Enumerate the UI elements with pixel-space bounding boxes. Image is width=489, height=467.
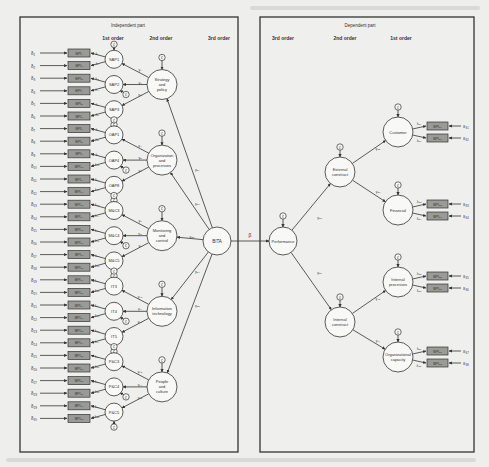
epsilon-label: ε₃₃ bbox=[463, 202, 469, 207]
delta-label: δ₁₄ bbox=[31, 215, 37, 220]
first-order-label: M&C4 bbox=[108, 233, 120, 238]
right-order-label-1st: 1st order bbox=[390, 35, 411, 41]
disturbance-icon-label: ζ bbox=[397, 255, 399, 260]
indicator-box-label: BPI₃₁ bbox=[433, 125, 442, 129]
delta-label: δ₁₈ bbox=[31, 265, 37, 270]
delta-label: δ₂ bbox=[31, 64, 36, 69]
indicator-box-label: BPI₁₉ bbox=[75, 278, 84, 282]
indicator-box-label: BPI₁₂ bbox=[75, 190, 84, 194]
delta-label: δ₁₅ bbox=[31, 227, 37, 232]
second-order-label-line: processes bbox=[153, 163, 171, 168]
indicator-box-label: BPI₃₆ bbox=[433, 287, 442, 291]
lambda-label: λ₃₇ bbox=[417, 347, 422, 351]
first-order-label: P&C3 bbox=[109, 359, 120, 364]
delta-label: δ₁₇ bbox=[31, 253, 37, 258]
delta-label: δ₂₃ bbox=[31, 328, 37, 333]
gamma-label: γ₃₁ bbox=[195, 168, 200, 172]
disturbance-icon-label: ζ bbox=[113, 425, 115, 430]
gamma-label: γ₃₈ bbox=[376, 147, 381, 151]
gamma-label: γ₄₀ bbox=[376, 297, 381, 301]
gamma-label: γ₃₅ bbox=[195, 304, 200, 308]
delta-label: δ₂₂ bbox=[31, 316, 37, 321]
disturbance-icon-label: ζ bbox=[397, 105, 399, 110]
first-order-label: OAP4 bbox=[109, 158, 120, 163]
indicator-box-label: BPI₂ bbox=[75, 64, 83, 68]
disturbance-icon-label: ζ bbox=[113, 122, 115, 127]
gamma-label: γ₉ bbox=[138, 244, 142, 248]
left-order-label-2nd: 2nd order bbox=[149, 35, 172, 41]
first-order-label: SAP3 bbox=[109, 107, 120, 112]
indicator-box-label: BPI₃₈ bbox=[433, 362, 442, 366]
indicator-box-label: BPI₁₃ bbox=[75, 203, 84, 207]
first-order-label: OAP1 bbox=[109, 132, 120, 137]
lambda-label: λ₃₀ bbox=[95, 415, 100, 419]
gamma-label: γ₅ bbox=[138, 156, 142, 160]
second-order-label-line: technology bbox=[152, 311, 171, 316]
disturbance-icon-label: ζ bbox=[161, 358, 163, 363]
delta-label: δ₅ bbox=[31, 101, 36, 106]
disturbance-icon-label: ζ bbox=[113, 349, 115, 354]
sem-path-diagram: Independent part1st order2nd order3rd or… bbox=[0, 0, 489, 467]
indicator-box-label: BPI₅ bbox=[75, 102, 83, 106]
disturbance-icon-label: ζ bbox=[161, 55, 163, 60]
independent-part-title: Independent part bbox=[111, 23, 146, 28]
lambda-label: λ₃₄ bbox=[417, 217, 422, 221]
gamma-label: γ₁₄ bbox=[138, 383, 143, 387]
indicator-box-label: BPI₂₆ bbox=[75, 367, 84, 371]
disturbance-icon-label: ζ bbox=[125, 395, 127, 400]
disturbance-icon-label: ζ bbox=[161, 206, 163, 211]
lambda-label: λ₃₆ bbox=[417, 289, 422, 293]
lambda-label: λ₂₂ bbox=[95, 314, 100, 318]
gamma-label: γ₄₁ bbox=[376, 339, 381, 343]
first-order-label: OAP8 bbox=[109, 183, 120, 188]
delta-label: δ₂₉ bbox=[31, 404, 37, 409]
lambda-label: λ₂₀ bbox=[95, 289, 100, 293]
indicator-box-label: BPI₇ bbox=[75, 127, 83, 131]
epsilon-label: ε₃₆ bbox=[463, 286, 469, 291]
first-order-label: IT4 bbox=[111, 309, 118, 314]
first-order-label: P&C4 bbox=[109, 384, 120, 389]
gamma-label: γ₁₂ bbox=[138, 320, 143, 324]
epsilon-label: ε₃₄ bbox=[463, 214, 469, 219]
delta-label: δ₃₀ bbox=[31, 416, 37, 421]
indicator-box-label: BPI₁₀ bbox=[75, 165, 84, 169]
lambda-label: λ₁₄ bbox=[95, 214, 100, 218]
indicator-box-label: BPI₁₄ bbox=[75, 215, 84, 219]
gamma-label: γ₃₇ bbox=[317, 271, 322, 275]
indicator-box-label: BPI₃₃ bbox=[433, 203, 442, 207]
delta-label: δ₁₁ bbox=[31, 177, 37, 182]
disturbance-icon-label: ζ bbox=[125, 92, 127, 97]
delta-label: δ₃ bbox=[31, 76, 36, 81]
first-order-label-line: Financial bbox=[390, 208, 406, 213]
disturbance-icon-label: ζ bbox=[113, 42, 115, 47]
first-order-label: IT3 bbox=[111, 284, 118, 289]
indicator-box-label: BPI₂₄ bbox=[75, 341, 84, 345]
gamma-label: γ₆ bbox=[138, 169, 142, 173]
disturbance-icon-label: ζ bbox=[113, 274, 115, 279]
indicator-box-label: BPI₂₁ bbox=[75, 304, 84, 308]
lambda-label: λ₂₅ bbox=[95, 355, 100, 359]
gamma-label: γ₄ bbox=[138, 144, 142, 148]
second-order-label-line: construct bbox=[332, 322, 349, 327]
lambda-label: λ₅ bbox=[95, 103, 99, 107]
indicator-box-label: BPI₃ bbox=[75, 77, 83, 81]
disturbance-icon-label: ζ bbox=[339, 295, 341, 300]
delta-label: δ₂₄ bbox=[31, 341, 37, 346]
delta-label: δ₂₅ bbox=[31, 353, 37, 358]
indicator-box-label: BPI₆ bbox=[75, 115, 83, 119]
disturbance-icon-label: ζ bbox=[113, 118, 115, 123]
delta-label: δ₂₆ bbox=[31, 366, 37, 371]
lambda-label: λ₆ bbox=[95, 113, 99, 117]
lambda-label: λ₁₃ bbox=[95, 203, 100, 207]
gamma-label: γ₃ bbox=[138, 93, 142, 97]
gamma-label: γ₁₃ bbox=[138, 370, 143, 374]
first-order-label: SAP1 bbox=[109, 57, 120, 62]
gamma-label: γ₈ bbox=[138, 232, 142, 236]
delta-label: δ₁₀ bbox=[31, 164, 37, 169]
lambda-label: λ₁₅ bbox=[95, 229, 100, 233]
lambda-label: λ₃₁ bbox=[417, 122, 422, 126]
dependent-part-title: Dependent part bbox=[344, 23, 376, 28]
lambda-label: λ₃₅ bbox=[417, 272, 422, 276]
first-order-label-line: capacity bbox=[391, 357, 406, 362]
disturbance-icon-label: ζ bbox=[125, 243, 127, 248]
